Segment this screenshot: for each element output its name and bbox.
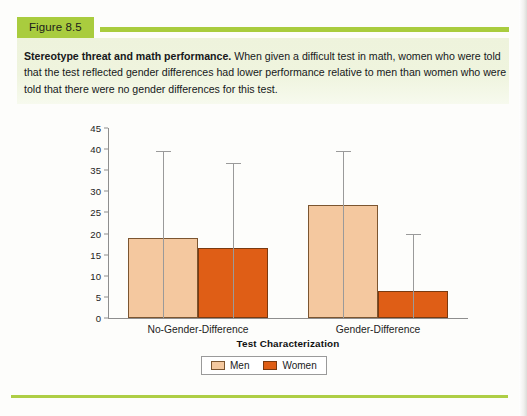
y-tick-label: 45 (90, 123, 101, 134)
y-tick-label: 0 (96, 313, 101, 324)
y-tick-label: 5 (96, 291, 101, 302)
figure-number-tab: Figure 8.5 (17, 17, 94, 38)
y-axis-line (108, 128, 109, 318)
y-tick-label: 40 (90, 144, 101, 155)
y-tick-label: 35 (90, 165, 101, 176)
legend-item-men: Men (211, 360, 249, 371)
x-axis-line (108, 318, 468, 319)
y-tick-mark (104, 233, 108, 234)
error-bar-cap (406, 234, 421, 235)
error-bar-men-no-gender-difference (163, 151, 164, 318)
figure-page: Figure 8.5 Stereotype threat and math pe… (0, 0, 527, 416)
footer-rule (11, 395, 508, 398)
y-tick-mark (104, 318, 108, 319)
y-tick-mark (104, 296, 108, 297)
y-tick-label: 20 (90, 228, 101, 239)
y-tick-mark (104, 212, 108, 213)
legend-label: Men (230, 360, 249, 371)
y-tick-mark (104, 128, 108, 129)
y-tick-label: 25 (90, 207, 101, 218)
legend-item-women: Women (263, 360, 316, 371)
y-tick-label: 15 (90, 249, 101, 260)
error-bar-women-gender-difference (413, 234, 414, 318)
error-bar-cap (156, 151, 171, 152)
y-tick-mark (104, 254, 108, 255)
legend-label: Women (282, 360, 316, 371)
x-tick-label-gender-difference: Gender-Difference (336, 324, 421, 335)
bar-chart: Score Corrected for Guessing 05101520253… (0, 110, 527, 380)
figure-header-rule (100, 27, 509, 32)
plot-area: 051015202530354045 No-Gender-DifferenceG… (108, 128, 468, 318)
error-bar-cap (226, 163, 241, 164)
error-bar-men-gender-difference (343, 151, 344, 318)
legend-swatch-men (211, 361, 225, 370)
y-tick-label: 30 (90, 186, 101, 197)
error-bar-cap (336, 151, 351, 152)
y-tick-mark (104, 170, 108, 171)
x-tick-label-no-gender-difference: No-Gender-Difference (147, 324, 248, 335)
x-axis-title: Test Characterization (108, 338, 468, 349)
chart-legend: MenWomen (201, 356, 327, 375)
y-tick-label: 10 (90, 270, 101, 281)
caption-lead: Stereotype threat and math performance. (24, 50, 231, 62)
legend-swatch-women (263, 361, 277, 370)
y-tick-mark (104, 275, 108, 276)
figure-caption: Stereotype threat and math performance. … (24, 48, 507, 97)
error-bar-women-no-gender-difference (233, 163, 234, 318)
y-tick-mark (104, 191, 108, 192)
y-tick-mark (104, 149, 108, 150)
